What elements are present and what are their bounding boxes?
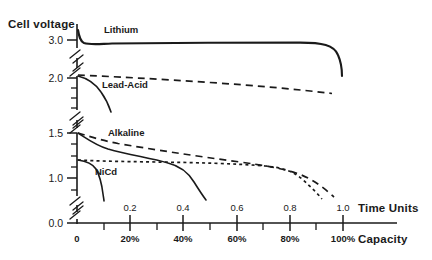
chart-canvas: 3.0 2.0 1.5 1.0 0.0 Cell voltage 0.2 0.4…: [0, 0, 432, 260]
series-curve-alkaline: [78, 133, 334, 197]
y-tick-label-2.0: 2.0: [48, 72, 63, 84]
x-axis-title-time-units: Time Units: [358, 202, 419, 214]
x-axis-title-capacity: Capacity: [358, 233, 408, 245]
time-tick-label-0.4: 0.4: [176, 202, 189, 213]
capacity-tick-label-40: 40%: [173, 233, 193, 244]
y-axis-title: Cell voltage: [8, 18, 75, 30]
y-tick-label-1.5: 1.5: [48, 127, 63, 139]
y-tick-label-1.0: 1.0: [48, 172, 63, 184]
capacity-tick-label-60: 60%: [227, 233, 247, 244]
y-axis: 3.0 2.0 1.5 1.0 0.0 Cell voltage: [8, 18, 83, 229]
series-label-lithium: Lithium: [104, 24, 138, 35]
capacity-tick-label-0: 0: [74, 233, 79, 244]
series-label-nicd: NiCd: [95, 166, 117, 177]
series-annotations: Lithium Lead-Acid Alkaline NiCd: [95, 24, 148, 177]
time-tick-label-0.8: 0.8: [283, 202, 296, 213]
time-tick-label-1.0: 1.0: [336, 202, 349, 213]
capacity-tick-label-20: 20%: [120, 233, 140, 244]
series-label-alkaline: Alkaline: [108, 127, 144, 138]
capacity-tick-label-80: 80%: [280, 233, 300, 244]
battery-discharge-chart: 3.0 2.0 1.5 1.0 0.0 Cell voltage 0.2 0.4…: [0, 0, 432, 260]
x-minor-ticks: [104, 223, 316, 230]
series-curve-lithium: [78, 30, 342, 76]
series-label-lead-acid: Lead-Acid: [102, 79, 148, 90]
time-tick-label-0.6: 0.6: [230, 202, 243, 213]
y-tick-label-3.0: 3.0: [48, 34, 63, 46]
y-minor-ticks: [71, 88, 77, 190]
series-curves: [78, 30, 342, 201]
time-tick-label-0.2: 0.2: [123, 202, 136, 213]
x-axis: 0.2 0.4 0.6 0.8 1.0 Time Units 0 20% 40%…: [74, 202, 418, 245]
y-tick-label-0.0: 0.0: [48, 217, 63, 229]
capacity-tick-label-100: 100%: [331, 233, 356, 244]
